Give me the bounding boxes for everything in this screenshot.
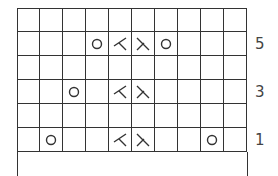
- chart-cell: [201, 56, 224, 80]
- chart-cell: [40, 8, 63, 32]
- chart-cell: [40, 104, 63, 128]
- chart-cell: [63, 80, 86, 104]
- chart-cell: [178, 32, 201, 56]
- chart-cell: [17, 56, 40, 80]
- chart-footer-band: [17, 152, 248, 176]
- chart-cell: [40, 56, 63, 80]
- chart-row: [17, 32, 248, 56]
- chart-cell: [86, 8, 109, 32]
- chart-cell: [109, 104, 132, 128]
- yarn-over-circle-icon: [158, 36, 174, 52]
- ssk-left-slant-icon: [135, 84, 151, 100]
- chart-cell: [17, 128, 40, 152]
- chart-cell: [201, 104, 224, 128]
- ssk-left-slant-icon: [135, 36, 151, 52]
- k2tog-right-slant-icon: [112, 132, 128, 148]
- chart-row: [17, 8, 248, 32]
- chart-cell: [40, 80, 63, 104]
- chart-cell: [109, 128, 132, 152]
- chart-cell: [155, 104, 178, 128]
- chart-cell: [86, 128, 109, 152]
- chart-cell: [132, 128, 155, 152]
- chart-cell: [63, 56, 86, 80]
- chart-cell: [178, 56, 201, 80]
- row-number-label: 3: [255, 83, 271, 101]
- chart-cell: [132, 8, 155, 32]
- chart-cell: [63, 32, 86, 56]
- chart-cell: [224, 56, 247, 80]
- chart-cell: [155, 128, 178, 152]
- yarn-over-circle-icon: [66, 84, 82, 100]
- chart-row: [17, 56, 248, 80]
- chart-cell: [178, 128, 201, 152]
- chart-cell: [17, 32, 40, 56]
- k2tog-right-slant-icon: [112, 84, 128, 100]
- chart-cell: [86, 56, 109, 80]
- chart-cell: [201, 8, 224, 32]
- chart-cell: [17, 80, 40, 104]
- chart-cell: [40, 32, 63, 56]
- yarn-over-circle-icon: [89, 36, 105, 52]
- yarn-over-circle-icon: [43, 132, 59, 148]
- chart-cell: [178, 104, 201, 128]
- chart-cell: [109, 80, 132, 104]
- knitting-chart: [17, 8, 248, 176]
- chart-cell: [132, 80, 155, 104]
- chart-cell: [224, 128, 247, 152]
- chart-cell: [155, 8, 178, 32]
- chart-cell: [201, 32, 224, 56]
- chart-cell: [132, 32, 155, 56]
- chart-cell: [178, 80, 201, 104]
- chart-cell: [224, 104, 247, 128]
- chart-cell: [86, 104, 109, 128]
- chart-cell: [178, 8, 201, 32]
- chart-cell: [224, 32, 247, 56]
- row-number-label: 1: [255, 131, 271, 149]
- chart-row: [17, 128, 248, 152]
- chart-cell: [132, 56, 155, 80]
- chart-row: [17, 80, 248, 104]
- chart-cell: [201, 128, 224, 152]
- chart-cell: [109, 8, 132, 32]
- chart-cell: [86, 32, 109, 56]
- chart-cell: [155, 56, 178, 80]
- chart-cell: [201, 80, 224, 104]
- chart-row: [17, 104, 248, 128]
- row-number-label: 5: [255, 35, 271, 53]
- yarn-over-circle-icon: [204, 132, 220, 148]
- chart-cell: [155, 32, 178, 56]
- chart-cell: [132, 104, 155, 128]
- chart-cell: [109, 32, 132, 56]
- chart-cell: [155, 80, 178, 104]
- chart-cell: [86, 80, 109, 104]
- chart-cell: [224, 8, 247, 32]
- chart-cell: [63, 104, 86, 128]
- k2tog-right-slant-icon: [112, 36, 128, 52]
- chart-cell: [224, 80, 247, 104]
- chart-cell: [63, 128, 86, 152]
- chart-cell: [17, 104, 40, 128]
- chart-cell: [17, 8, 40, 32]
- chart-cell: [40, 128, 63, 152]
- ssk-left-slant-icon: [135, 132, 151, 148]
- chart-cell: [63, 8, 86, 32]
- chart-cell: [109, 56, 132, 80]
